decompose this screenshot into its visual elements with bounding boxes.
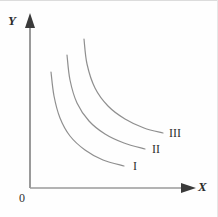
origin-label: 0 [19,192,25,204]
indifference-curve-ii [67,55,145,149]
curve-label-ii: II [152,143,160,155]
y-axis-arrow-icon [25,13,35,28]
x-axis-arrow-icon [181,183,196,193]
x-axis-label: X [198,180,207,193]
curve-label-iii: III [169,127,181,139]
curve-label-i: I [133,160,137,172]
y-axis-label: Y [8,14,16,27]
indifference-curve-figure: Y X 0 I II III [0,0,218,217]
plot-canvas [0,0,218,217]
indifference-curve-iii [84,39,163,133]
